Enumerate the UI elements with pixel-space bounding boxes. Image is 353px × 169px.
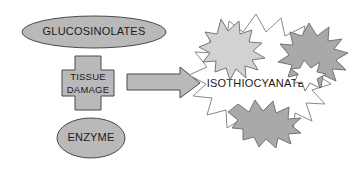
right-arrow-icon bbox=[127, 67, 200, 98]
connector-arrow-right bbox=[127, 67, 200, 98]
glucosinolates-label: GLUCOSINOLATES bbox=[43, 25, 146, 37]
isothiocyanate-label: ISOTHIOCYANATE bbox=[207, 77, 305, 89]
node-enzyme[interactable]: ENZYME bbox=[57, 118, 125, 158]
tissue-damage-label-line1: TISSUE bbox=[70, 71, 106, 82]
enzyme-label: ENZYME bbox=[67, 131, 114, 143]
tissue-damage-label-line2: DAMAGE bbox=[67, 84, 109, 95]
diagram-canvas: GLUCOSINOLATES TISSUE DAMAGE ENZYME ISOT… bbox=[0, 0, 353, 169]
node-glucosinolates[interactable]: GLUCOSINOLATES bbox=[22, 16, 166, 48]
node-tissue-damage[interactable]: TISSUE DAMAGE bbox=[62, 56, 114, 110]
process-flow-diagram: GLUCOSINOLATES TISSUE DAMAGE ENZYME ISOT… bbox=[0, 0, 353, 169]
